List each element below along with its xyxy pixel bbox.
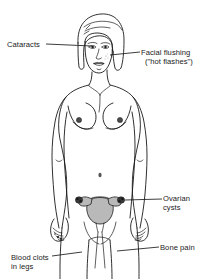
label-facial-flushing: Facial flushing("hot flashes") [141,48,193,67]
ovary-right [117,197,124,203]
label-facial-flushing-line1: Facial flushing [141,48,190,57]
label-blood-clots-line2: in legs [11,262,49,271]
eyes [88,42,110,48]
leader-facial-flushing [110,52,140,55]
leader-ovarian-cysts [125,199,162,200]
label-cataracts: Cataracts [7,40,40,49]
neck [89,70,110,85]
ovary-left [75,197,82,203]
reproductive-organs [75,197,124,268]
symptoms-body-diagram: Cataracts Facial flushing("hot flashes")… [0,0,205,279]
nose [96,49,102,59]
label-blood-clots: Blood clotsin legs [11,253,49,272]
label-ovarian-cysts-line1: Ovarian [163,194,190,203]
nipples [76,117,122,122]
label-facial-flushing-line2: ("hot flashes") [141,57,193,66]
leader-blood-clots [52,252,82,256]
lips [94,62,104,69]
label-ovarian-cysts-line2: cysts [163,203,190,212]
label-bone-pain: Bone pain [160,243,195,252]
cheek-flush [105,54,109,60]
label-ovarian-cysts: Ovariancysts [163,194,190,213]
navel [98,173,101,177]
label-blood-clots-line1: Blood clots [11,253,49,262]
